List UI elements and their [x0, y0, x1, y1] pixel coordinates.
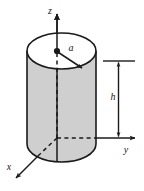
height-dimension-label: h [111, 91, 116, 102]
y-axis-label: y [123, 144, 129, 155]
x-axis-label: x [6, 161, 12, 172]
x-axis: x [6, 154, 40, 178]
z-axis-label: z [47, 5, 52, 16]
cylinder-coordinate-diagram: z y [0, 0, 144, 191]
height-dimension: h [103, 61, 135, 137]
figure-container: z y [0, 0, 144, 191]
radius-dimension-label: a [69, 42, 74, 53]
y-axis: y [96, 138, 135, 155]
cylinder-top-face [27, 33, 96, 69]
